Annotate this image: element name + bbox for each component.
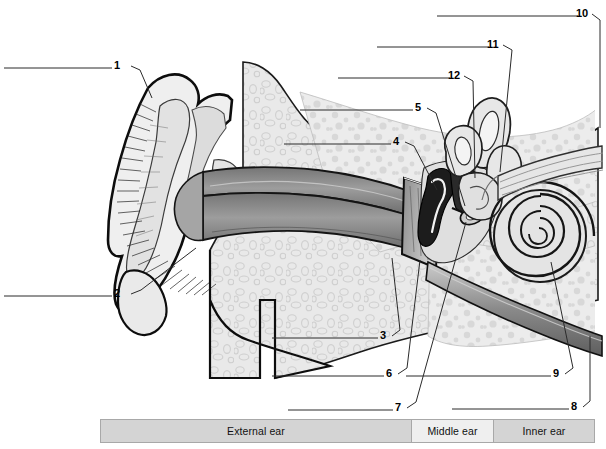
callout-number-2: 2: [114, 288, 120, 299]
callout-number-8: 8: [571, 401, 577, 412]
callout-number-12: 12: [448, 70, 460, 81]
ear-anatomy-diagram: [0, 0, 606, 449]
callout-number-11: 11: [487, 39, 499, 50]
callout-number-9: 9: [553, 368, 559, 379]
ear-region-legend-bar: External ear Middle ear Inner ear: [100, 419, 595, 443]
callout-number-10: 10: [576, 8, 588, 19]
legend-cell-external-ear: External ear: [101, 420, 412, 442]
callout-number-3: 3: [380, 330, 386, 341]
callout-number-6: 6: [386, 368, 392, 379]
callout-number-5: 5: [415, 102, 421, 113]
legend-cell-inner-ear: Inner ear: [494, 420, 594, 442]
callout-number-7: 7: [395, 402, 401, 413]
legend-cell-middle-ear: Middle ear: [412, 420, 494, 442]
callout-number-4: 4: [393, 136, 399, 147]
callout-number-1: 1: [114, 60, 120, 71]
